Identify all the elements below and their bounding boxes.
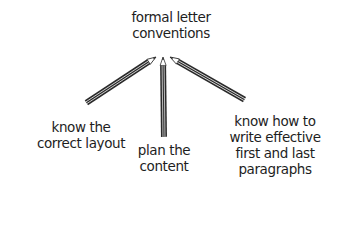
branch-content-line-1: plan the bbox=[124, 142, 204, 158]
branch-paragraphs-line-4: paragraphs bbox=[220, 161, 330, 177]
branch-paragraphs-line-2: write effective bbox=[220, 129, 330, 145]
branch-content: plan the content bbox=[124, 142, 204, 174]
branch-content-line-2: content bbox=[124, 158, 204, 174]
pencil-icon-right bbox=[169, 54, 246, 102]
branch-paragraphs-line-3: first and last bbox=[220, 145, 330, 161]
branch-paragraphs: know how to write effective first and la… bbox=[220, 113, 330, 177]
pencil-icon-left bbox=[85, 54, 158, 105]
branch-paragraphs-line-1: know how to bbox=[220, 113, 330, 129]
branch-layout-line-1: know the bbox=[18, 119, 144, 135]
pencil-icon-center bbox=[160, 57, 167, 137]
